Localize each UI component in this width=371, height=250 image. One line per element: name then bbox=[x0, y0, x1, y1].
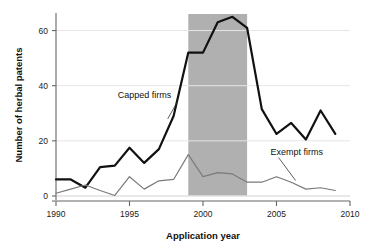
y-tick-label: 0 bbox=[43, 191, 48, 201]
capped-firms-label: Capped firms bbox=[118, 90, 172, 100]
x-tick-label: 2000 bbox=[194, 209, 213, 219]
x-tick-label: 2010 bbox=[341, 209, 360, 219]
x-tick-label: 2005 bbox=[267, 209, 286, 219]
x-axis-title: Application year bbox=[166, 230, 240, 241]
x-tick-label: 1995 bbox=[120, 209, 139, 219]
chart-canvas: 0204060 19901995200020052010 Number of h… bbox=[0, 0, 371, 250]
x-axis-tick-labels: 19901995200020052010 bbox=[47, 209, 360, 219]
y-tick-label: 20 bbox=[39, 136, 49, 146]
herbal-patents-chart: 0204060 19901995200020052010 Number of h… bbox=[0, 0, 371, 250]
y-tick-label: 40 bbox=[39, 81, 49, 91]
x-tick-label: 1990 bbox=[47, 209, 66, 219]
y-axis-tick-labels: 0204060 bbox=[39, 26, 49, 201]
y-tick-label: 60 bbox=[39, 26, 49, 36]
exempt-firms-label: Exempt firms bbox=[271, 147, 324, 157]
y-axis-title: Number of herbal patents bbox=[13, 47, 24, 162]
